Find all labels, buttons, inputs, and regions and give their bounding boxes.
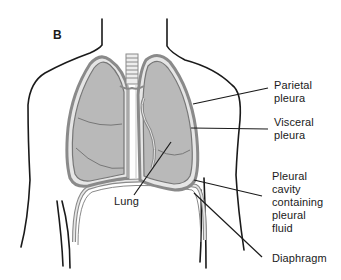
panel-letter: B xyxy=(53,28,62,42)
label-lung: Lung xyxy=(114,195,139,208)
label-parietal-pleura: Parietal pleura xyxy=(274,79,312,105)
right-lung xyxy=(138,55,198,190)
label-visceral-pleura: Visceral pleura xyxy=(274,116,314,142)
leader-visceral xyxy=(191,128,268,129)
diaphragm-shape xyxy=(74,180,205,245)
left-lung xyxy=(67,57,128,187)
leader-parietal xyxy=(193,88,268,104)
label-diaphragm: Diaphragm xyxy=(272,252,327,265)
label-pleural-cavity: Pleural cavity containing pleural fluid xyxy=(272,170,323,235)
thorax-diagram: B Parietal pleura Visceral pleura Lung P… xyxy=(0,0,341,280)
